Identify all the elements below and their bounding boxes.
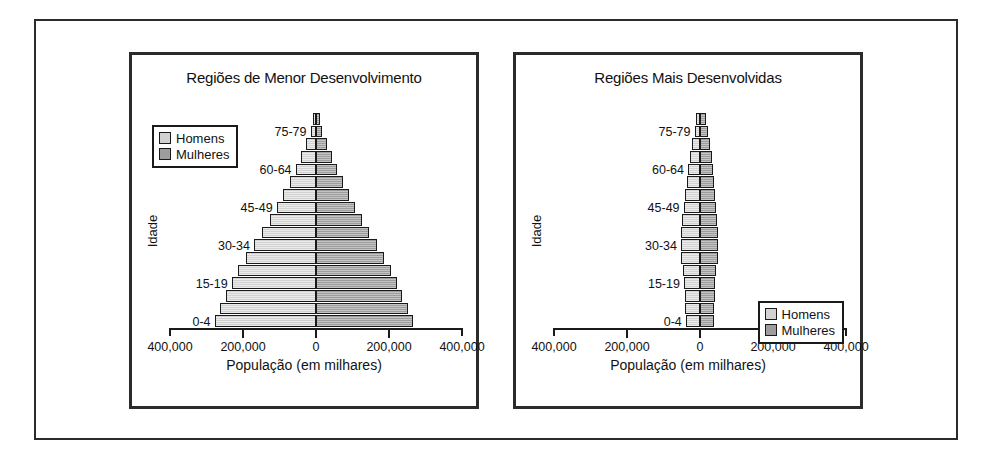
plot-area-more-developed: Idade 75-7960-6445-4930-3415-190-4 400,0… (516, 55, 860, 406)
x-axis-tick-label: 200,000 (220, 340, 265, 354)
bar-segment-female (700, 113, 706, 125)
x-axis-tick-label: 0 (313, 340, 320, 354)
bar-segment-female (700, 290, 715, 302)
pyramid-bar-row (554, 113, 846, 125)
y-axis-label-left: Idade (145, 214, 160, 247)
age-tick-label: 75-79 (659, 125, 691, 139)
age-tick-label: 45-49 (241, 201, 273, 215)
pyramid-bar-row (170, 214, 462, 226)
legend-swatch-female-icon (765, 324, 777, 336)
bar-segment-male (254, 239, 316, 251)
pyramid-bar-row (554, 265, 846, 277)
x-axis-tick (553, 328, 555, 336)
bar-segment-male (270, 214, 316, 226)
age-tick-label: 15-19 (196, 277, 228, 291)
legend-row-male: Homens (159, 130, 229, 146)
age-tick-label: 75-79 (275, 125, 307, 139)
legend-swatch-male-icon (159, 132, 171, 144)
x-axis-tick (169, 328, 171, 336)
bar-segment-male (220, 303, 316, 315)
legend-more-developed: Homens Mulheres (758, 301, 844, 344)
bar-segment-male (684, 277, 700, 289)
pyramid-bar-row (554, 164, 846, 176)
x-axis-tick-label: 400,000 (147, 340, 192, 354)
bar-segment-male (301, 151, 316, 163)
legend-label-female: Mulheres (782, 323, 835, 338)
bar-segment-female (316, 176, 343, 188)
bar-segment-male (692, 138, 700, 150)
x-axis-tick (699, 330, 701, 338)
bar-segment-female (700, 164, 713, 176)
y-axis-label-right: Idade (529, 214, 544, 247)
pyramid-bar-row (554, 138, 846, 150)
figure-outer-frame: Regiões de Menor Desenvolvimento Idade 7… (34, 19, 958, 440)
x-axis-tick-label: 400,000 (439, 340, 484, 354)
pyramid-bar-row (170, 239, 462, 251)
bar-segment-male (238, 265, 316, 277)
x-axis-tick-label: 200,000 (604, 340, 649, 354)
bar-segment-male (232, 277, 316, 289)
bar-segment-male (283, 189, 316, 201)
legend-swatch-male-icon (765, 308, 777, 320)
age-tick-label: 60-64 (652, 163, 684, 177)
bar-segment-female (316, 138, 327, 150)
legend-label-male: Homens (782, 307, 830, 322)
bar-segment-female (316, 151, 332, 163)
legend-row-male: Homens (765, 306, 835, 322)
age-tick-label: 0-4 (664, 315, 682, 329)
bar-segment-male (681, 252, 700, 264)
bar-segment-female (316, 227, 369, 239)
x-axis-label-left: População (em milhares) (132, 357, 476, 373)
x-axis-tick (845, 328, 847, 336)
bar-segment-male (687, 176, 700, 188)
age-tick-label: 60-64 (260, 163, 292, 177)
pyramid-bar-row (554, 189, 846, 201)
legend-swatch-female-icon (159, 148, 171, 160)
bar-segment-male (690, 151, 700, 163)
legend-less-developed: Homens Mulheres (152, 125, 238, 168)
bar-segment-female (316, 303, 408, 315)
pyramid-bar-row (554, 214, 846, 226)
bar-segment-female (700, 202, 716, 214)
bar-segment-male (685, 290, 700, 302)
bar-segment-male (226, 290, 316, 302)
pyramid-bar-row (170, 303, 462, 315)
bar-segment-female (316, 113, 320, 125)
pyramid-bar-row (170, 202, 462, 214)
bar-segment-female (700, 277, 715, 289)
bar-segment-female (700, 265, 716, 277)
bar-segment-female (316, 315, 413, 327)
bar-segment-male (684, 202, 700, 214)
bar-segment-female (700, 138, 710, 150)
pyramid-bar-row (554, 176, 846, 188)
bar-segment-male (686, 315, 700, 327)
bar-segment-male (681, 227, 700, 239)
bar-segment-female (316, 189, 349, 201)
bar-segment-female (316, 214, 362, 226)
bar-segment-male (681, 239, 700, 251)
bar-segment-male (685, 303, 700, 315)
bar-segment-female (700, 239, 718, 251)
pyramid-bar-row (170, 252, 462, 264)
age-tick-label: 45-49 (648, 201, 680, 215)
bar-segment-male (306, 138, 316, 150)
chart-panel-more-developed: Regiões Mais Desenvolvidas Idade 75-7960… (513, 52, 863, 409)
bar-segment-female (316, 239, 377, 251)
chart-panel-less-developed: Regiões de Menor Desenvolvimento Idade 7… (129, 52, 479, 409)
bar-segment-female (700, 227, 718, 239)
legend-row-female: Mulheres (765, 322, 835, 338)
bar-segment-male (685, 189, 700, 201)
bar-segment-female (700, 126, 708, 138)
pyramid-bar-row (170, 265, 462, 277)
bar-segment-female (316, 126, 322, 138)
bar-segment-female (700, 176, 714, 188)
bar-segment-male (246, 252, 316, 264)
x-axis-tick-label: 200,000 (366, 340, 411, 354)
bar-segment-female (700, 315, 714, 327)
bar-segment-male (683, 265, 700, 277)
plot-area-less-developed: Idade 75-7960-6445-4930-3415-190-4 400,0… (132, 55, 476, 406)
pyramid-bar-row (554, 252, 846, 264)
bar-segment-male (296, 164, 316, 176)
x-axis-tick (315, 330, 317, 338)
bar-segment-male (262, 227, 316, 239)
